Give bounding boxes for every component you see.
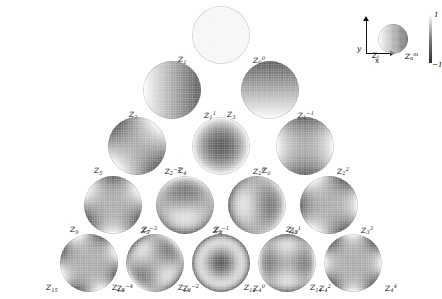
zernike-cell-Z2: Z2Z11 bbox=[143, 61, 201, 119]
disk-outline bbox=[156, 176, 214, 234]
disk-outline bbox=[300, 176, 358, 234]
zernike-pyramid-figure: Z1Z00Z2Z11Z3Z1−1Z5Z2−2Z4Z20Z6Z22Z9Z3−3Z7… bbox=[0, 0, 442, 299]
colorbar-min-label: −1 bbox=[432, 60, 442, 69]
legend-nm-label: Znm bbox=[405, 51, 418, 61]
disk-outline bbox=[84, 176, 142, 234]
zernike-cell-Z1: Z1Z00 bbox=[192, 6, 250, 64]
zernike-cell-Z5: Z5Z2−2 bbox=[108, 117, 166, 175]
disk-outline bbox=[258, 234, 316, 292]
colorbar: 1 −1 bbox=[429, 15, 432, 63]
pyramid-row-n4: Z15Z4−4Z13Z4−2Z11Z40Z12Z42Z14Z44 bbox=[0, 234, 442, 292]
zernike-cell-Z14: Z14Z44 bbox=[324, 234, 382, 292]
noll-index-label: Z6 bbox=[262, 167, 271, 176]
y-axis-line bbox=[366, 20, 367, 54]
legend: y x Zj Znm 1 −1 bbox=[352, 4, 442, 76]
pyramid-row-n3: Z9Z3−3Z7Z3−1Z8Z31Z10Z33 bbox=[0, 176, 442, 234]
disk-outline bbox=[60, 234, 118, 292]
noll-index-label: Z13 bbox=[112, 284, 124, 293]
noll-index-label: Z11 bbox=[178, 284, 190, 293]
disk-outline bbox=[241, 61, 299, 119]
zernike-cell-Z10: Z10Z33 bbox=[300, 176, 358, 234]
zernike-disk-vertical-quadrafoil bbox=[324, 234, 382, 292]
colorbar-max-label: 1 bbox=[434, 10, 439, 19]
zernike-disk-vertical-trefoil bbox=[84, 176, 142, 234]
y-axis-arrow-icon bbox=[363, 16, 369, 21]
zernike-cell-Z11: Z11Z40 bbox=[192, 234, 250, 292]
disk-outline bbox=[192, 6, 250, 64]
nm-index-label: Z44 bbox=[385, 284, 397, 293]
zernike-disk-piston bbox=[192, 6, 250, 64]
legend-noll-label: Zj bbox=[372, 51, 379, 60]
zernike-disk-defocus bbox=[192, 117, 250, 175]
noll-index-label: Z14 bbox=[310, 284, 322, 293]
zernike-cell-Z7: Z7Z3−1 bbox=[156, 176, 214, 234]
zernike-cell-Z13: Z13Z4−2 bbox=[126, 234, 184, 292]
y-axis-label: y bbox=[357, 44, 361, 53]
disk-outline bbox=[276, 117, 334, 175]
disk-outline bbox=[228, 176, 286, 234]
nm-index-label: Z22 bbox=[337, 167, 349, 176]
zernike-disk-tilt-y bbox=[241, 61, 299, 119]
noll-index-label: Z15 bbox=[46, 284, 58, 293]
zernike-disk-vertical-secondary-astigmatism bbox=[258, 234, 316, 292]
legend-sample-outline bbox=[378, 24, 408, 54]
zernike-disk-tilt-x bbox=[143, 61, 201, 119]
zernike-cell-Z8: Z8Z31 bbox=[228, 176, 286, 234]
zernike-disk-oblique-quadrafoil bbox=[60, 234, 118, 292]
zernike-cell-Z4: Z4Z20 bbox=[192, 117, 250, 175]
noll-index-label: Z12 bbox=[244, 284, 256, 293]
zernike-cell-Z6: Z6Z22 bbox=[276, 117, 334, 175]
disk-outline bbox=[192, 234, 250, 292]
zernike-cell-Z3: Z3Z1−1 bbox=[241, 61, 299, 119]
disk-outline bbox=[324, 234, 382, 292]
disk-outline bbox=[108, 117, 166, 175]
zernike-cell-Z12: Z12Z42 bbox=[258, 234, 316, 292]
disk-outline bbox=[192, 117, 250, 175]
colorbar-gradient bbox=[429, 15, 432, 63]
noll-index-label: Z4 bbox=[178, 167, 187, 176]
zernike-disk-primary-spherical bbox=[192, 234, 250, 292]
zernike-disk-oblique-secondary-astigmatism bbox=[126, 234, 184, 292]
zernike-disk-vertical-coma bbox=[156, 176, 214, 234]
pyramid-row-n2: Z5Z2−2Z4Z20Z6Z22 bbox=[0, 117, 442, 175]
noll-index-label: Z5 bbox=[94, 167, 103, 176]
zernike-cell-Z15: Z15Z4−4 bbox=[60, 234, 118, 292]
zernike-cell-Z9: Z9Z3−3 bbox=[84, 176, 142, 234]
legend-sample-disk bbox=[378, 24, 408, 54]
zernike-disk-vertical-astigmatism bbox=[276, 117, 334, 175]
disk-outline bbox=[143, 61, 201, 119]
zernike-disk-horizontal-coma bbox=[228, 176, 286, 234]
disk-outline bbox=[126, 234, 184, 292]
zernike-disk-oblique-trefoil bbox=[300, 176, 358, 234]
zernike-disk-oblique-astigmatism bbox=[108, 117, 166, 175]
